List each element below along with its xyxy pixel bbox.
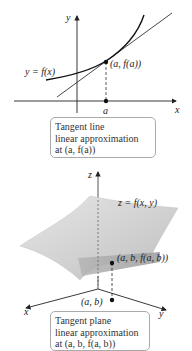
surface-label: z = f(x, y): [117, 197, 158, 209]
caption-line: at (a, f(a)): [55, 144, 151, 156]
caption-line: linear approximation: [55, 133, 151, 145]
z-axis-label: z: [87, 169, 92, 180]
tangent-plane-figure: z z = f(x, y) (a, b, f(a, b)) (a, b) x y: [20, 169, 178, 319]
y-axis-label: y: [65, 12, 71, 23]
diagram-canvas: y x y = f(x) (a, f(a)) a z z = f(x, y) (…: [0, 0, 192, 351]
y-axis-3d: [98, 289, 166, 310]
tangent-point: [104, 60, 108, 64]
caption-line: Tangent line: [55, 121, 151, 133]
y-axis-label-3d: y: [158, 308, 164, 319]
tangent-point-3d: [110, 261, 114, 265]
x-axis-label: x: [174, 104, 180, 115]
caption-line: linear approximation: [55, 327, 145, 339]
x-axis-label-3d: x: [23, 306, 29, 317]
tangent-line-figure: y x y = f(x) (a, f(a)) a: [14, 12, 180, 116]
tangent-plane-caption: Tangent plane linear approximation at (a…: [50, 311, 150, 351]
a-point: [104, 99, 108, 103]
function-curve: [46, 15, 144, 80]
caption-line: at (a, b, f(a, b)): [55, 338, 145, 350]
curve-label: y = f(x): [24, 66, 56, 78]
point-label: (a, f(a)): [110, 58, 142, 70]
caption-line: Tangent plane: [55, 315, 145, 327]
tangent-line-caption: Tangent line linear approximation at (a,…: [50, 117, 156, 158]
tick-label-a: a: [103, 105, 108, 116]
base-point: [110, 298, 114, 302]
base-point-label: (a, b): [81, 296, 103, 308]
point-label-3d: (a, b, f(a, b)): [117, 252, 169, 264]
